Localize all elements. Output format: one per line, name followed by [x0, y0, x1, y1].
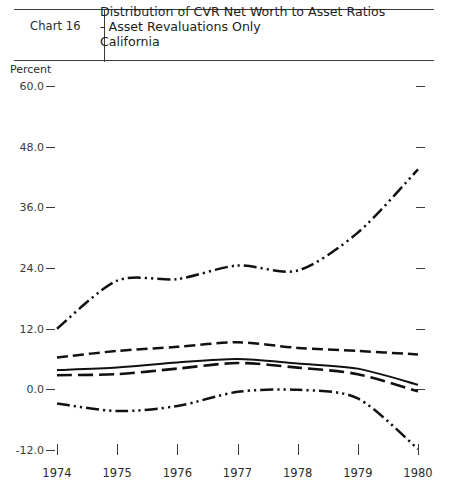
series-line	[57, 389, 418, 449]
series-line	[57, 342, 418, 357]
plot-area	[0, 0, 449, 496]
chart-page: Chart 16 Distribution of CVR Net Worth t…	[0, 0, 449, 496]
series-line	[57, 169, 418, 328]
